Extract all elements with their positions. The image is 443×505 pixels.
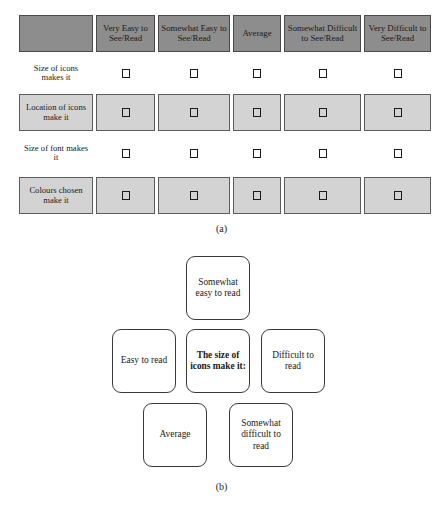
caption-panel-a: (a) <box>0 223 443 234</box>
matrix-row: Location of icons make it <box>19 94 428 131</box>
checkbox-icon[interactable] <box>122 149 130 158</box>
matrix-cell[interactable] <box>364 94 431 131</box>
matrix-cell[interactable] <box>158 177 230 214</box>
checkbox-icon[interactable] <box>122 69 130 78</box>
matrix-cell[interactable] <box>364 58 431 88</box>
matrix-cell[interactable] <box>233 138 281 168</box>
matrix-cell[interactable] <box>158 58 230 88</box>
node-average[interactable]: Average <box>143 403 207 467</box>
node-difficult-to-read[interactable]: Difficult to read <box>261 329 325 393</box>
matrix-cell[interactable] <box>233 94 281 131</box>
checkbox-icon[interactable] <box>122 108 130 117</box>
checkbox-icon[interactable] <box>190 149 198 158</box>
matrix-cell[interactable] <box>96 138 155 168</box>
checkbox-icon[interactable] <box>190 108 198 117</box>
matrix-cell[interactable] <box>96 94 155 131</box>
checkbox-icon[interactable] <box>394 149 402 158</box>
matrix-row-label-size-of-icons: Size of icons makes it <box>19 58 93 88</box>
caption-panel-b: (b) <box>0 481 443 492</box>
matrix-header-average: Average <box>233 15 281 52</box>
matrix-cell[interactable] <box>96 58 155 88</box>
node-map-panel: Somewhat easy to read Easy to read The s… <box>0 245 443 485</box>
checkbox-icon[interactable] <box>253 108 261 117</box>
matrix-header-blank-corner <box>19 15 93 52</box>
checkbox-icon[interactable] <box>319 149 327 158</box>
checkbox-icon[interactable] <box>253 69 261 78</box>
matrix-cell[interactable] <box>233 58 281 88</box>
matrix-row-label-location-of-icons: Location of icons make it <box>19 94 93 131</box>
matrix-header-somewhat-difficult: Somewhat Difficult to See/Read <box>284 15 361 52</box>
matrix-cell[interactable] <box>96 177 155 214</box>
matrix-cell[interactable] <box>158 94 230 131</box>
matrix-row: Size of font makes it <box>19 138 428 168</box>
node-easy-to-read[interactable]: Easy to read <box>112 329 176 393</box>
matrix-cell[interactable] <box>364 177 431 214</box>
matrix-header-very-difficult: Very Difficult to See/Read <box>364 15 431 52</box>
matrix-cell[interactable] <box>284 94 361 131</box>
node-somewhat-difficult-to-read[interactable]: Somewhat difficult to read <box>229 403 293 467</box>
matrix-row: Size of icons makes it <box>19 58 428 88</box>
checkbox-icon[interactable] <box>319 191 327 200</box>
checkbox-icon[interactable] <box>319 108 327 117</box>
matrix-header-row: Very Easy to See/Read Somewhat Easy to S… <box>19 15 428 52</box>
checkbox-icon[interactable] <box>319 69 327 78</box>
checkbox-icon[interactable] <box>394 191 402 200</box>
checkbox-icon[interactable] <box>190 69 198 78</box>
node-somewhat-easy-to-read[interactable]: Somewhat easy to read <box>186 256 250 320</box>
matrix-cell[interactable] <box>158 138 230 168</box>
matrix-cell[interactable] <box>233 177 281 214</box>
matrix-header-somewhat-easy: Somewhat Easy to See/Read <box>158 15 230 52</box>
matrix-question-panel: Very Easy to See/Read Somewhat Easy to S… <box>0 0 443 240</box>
matrix-row-label-size-of-font: Size of font makes it <box>19 138 93 168</box>
checkbox-icon[interactable] <box>253 149 261 158</box>
matrix-cell[interactable] <box>364 138 431 168</box>
node-center-the-size-of-icons-make-it: The size of icons make it: <box>186 329 250 393</box>
checkbox-icon[interactable] <box>394 69 402 78</box>
matrix-cell[interactable] <box>284 177 361 214</box>
matrix-row-label-colours-chosen: Colours chosen make it <box>19 177 93 214</box>
checkbox-icon[interactable] <box>253 191 261 200</box>
matrix-header-very-easy: Very Easy to See/Read <box>96 15 155 52</box>
matrix-cell[interactable] <box>284 58 361 88</box>
checkbox-icon[interactable] <box>122 191 130 200</box>
matrix-row: Colours chosen make it <box>19 177 428 214</box>
checkbox-icon[interactable] <box>190 191 198 200</box>
matrix-cell[interactable] <box>284 138 361 168</box>
checkbox-icon[interactable] <box>394 108 402 117</box>
